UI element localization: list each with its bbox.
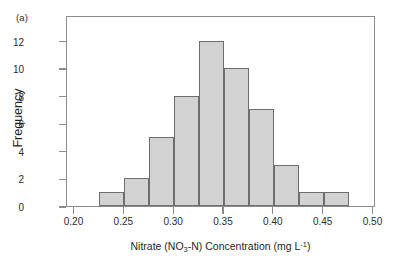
histogram-bar: [249, 109, 274, 206]
histogram-figure: (a) 024681012 Frequency 0.200.250.300.35…: [0, 0, 393, 271]
histogram-bar: [174, 96, 199, 206]
histogram-bar: [274, 165, 299, 206]
y-tick-mark: [59, 151, 66, 152]
x-tick-label: 0.30: [163, 216, 182, 227]
x-tick-label: 0.50: [363, 216, 382, 227]
x-tick-mark: [173, 207, 174, 214]
y-tick-mark: [59, 41, 66, 42]
x-tick-mark: [222, 207, 223, 214]
histogram-bar: [299, 192, 324, 206]
x-tick-mark: [372, 207, 373, 214]
y-tick-label: 12: [13, 36, 24, 47]
plot-frame: [66, 16, 375, 207]
y-tick-mark: [59, 179, 66, 180]
x-tick-label: 0.35: [213, 216, 232, 227]
x-tick-label: 0.40: [263, 216, 282, 227]
y-axis-title: Frequency: [11, 48, 25, 188]
histogram-bar: [224, 68, 249, 206]
x-tick-mark: [322, 207, 323, 214]
histogram-bar: [324, 192, 349, 206]
x-tick-label: 0.25: [114, 216, 133, 227]
x-tick-mark: [123, 207, 124, 214]
histogram-bar: [99, 192, 124, 206]
histogram-bar: [124, 178, 149, 206]
x-tick-mark: [73, 207, 74, 214]
x-tick-label: 0.45: [313, 216, 332, 227]
histogram-bar: [149, 137, 174, 206]
histogram-bar: [199, 41, 224, 206]
x-tick-label: 0.20: [64, 216, 83, 227]
y-tick-mark: [59, 124, 66, 125]
y-tick-mark: [59, 96, 66, 97]
x-axis-title: Nitrate (NO3-N) Concentration (mg L-1): [66, 240, 375, 254]
x-tick-mark: [272, 207, 273, 214]
y-tick-mark: [59, 68, 66, 69]
plot-area: [67, 17, 374, 206]
x-axis: 0.200.250.300.350.400.450.50: [0, 207, 393, 237]
